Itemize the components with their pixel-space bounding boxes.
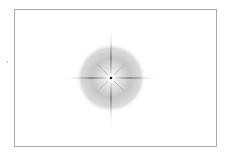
core-dot xyxy=(110,77,113,80)
starburst-flare xyxy=(0,0,232,159)
figure-canvas xyxy=(0,0,232,159)
